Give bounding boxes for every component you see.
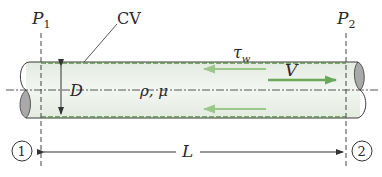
p1-label: P1 bbox=[31, 8, 50, 31]
section-1-number: 1 bbox=[18, 144, 26, 159]
velocity-label: V bbox=[285, 60, 299, 80]
cv-leader-line bbox=[84, 24, 117, 62]
pipe-flow-diagram: P1 P2 CV τw V D ρ, μ L 1 2 bbox=[0, 0, 382, 177]
p2-label: P2 bbox=[336, 8, 355, 31]
pipe-left-end-cap bbox=[20, 90, 31, 118]
fluid-properties-label: ρ, μ bbox=[139, 82, 168, 100]
section-2-number: 2 bbox=[358, 144, 366, 159]
wall-shear-label: τw bbox=[233, 43, 251, 64]
cv-label: CV bbox=[117, 9, 141, 28]
length-label: L bbox=[181, 141, 193, 161]
diameter-label: D bbox=[69, 81, 83, 100]
